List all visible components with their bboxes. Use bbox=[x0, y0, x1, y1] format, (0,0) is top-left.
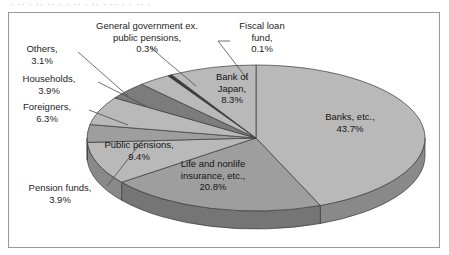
pie-label-fiscal-loan-fund: Fiscal loan fund, 0.1% bbox=[225, 20, 299, 55]
pie-label-life-nonlife-insurance: Life and nonlife insurance, etc., 20.8% bbox=[159, 158, 267, 193]
pie-label-pension-funds: Pension funds, 3.9% bbox=[13, 182, 107, 205]
pie-label-others: Others, 3.1% bbox=[6, 43, 78, 66]
pie-label-foreigners: Foreigners, 6.3% bbox=[7, 101, 87, 124]
pie-label-banks: Banks, etc., 43.7% bbox=[305, 111, 395, 134]
pie-label-households: Households, 3.9% bbox=[3, 73, 95, 96]
pie-label-bank-of-japan: Bank of Japan, 8.3% bbox=[200, 71, 264, 106]
pie-label-general-government: General government ex. public pensions, … bbox=[77, 20, 217, 55]
pie-label-public-pensions: Public pensions, 9.4% bbox=[90, 139, 188, 162]
